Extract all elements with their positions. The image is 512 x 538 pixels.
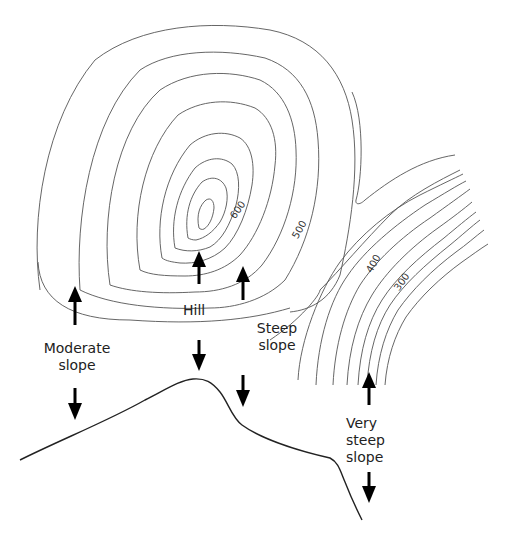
- contour-4: [137, 102, 276, 276]
- contour-valley-b: [298, 174, 463, 380]
- valley-contours: [270, 92, 488, 385]
- hill-contours: [37, 25, 355, 321]
- contour-valley-i: [385, 244, 488, 385]
- contour-valley-c: [316, 181, 466, 385]
- label-very-line1: Very: [346, 415, 396, 432]
- arrow-up-very-steep: [362, 372, 376, 405]
- contour-labels: 600 500 400 300: [228, 199, 412, 293]
- arrow-down-hill: [192, 340, 206, 371]
- label-steep-line2: slope: [252, 337, 302, 354]
- contour-600: [187, 178, 227, 240]
- contour-valley-g: [367, 220, 480, 385]
- label-moderate-line1: Moderate: [40, 340, 114, 357]
- arrow-up-hill: [192, 251, 206, 284]
- contour-label-400: 400: [364, 252, 383, 274]
- arrow-down-moderate: [68, 388, 82, 420]
- topographic-diagram: 600 500 400 300: [0, 0, 512, 538]
- label-very-line2: steep: [346, 432, 396, 449]
- arrow-down-steep: [236, 375, 250, 407]
- arrow-down-very-steep: [362, 472, 376, 503]
- label-very-steep-slope: Very steep slope: [346, 415, 396, 466]
- arrow-up-moderate: [68, 286, 82, 325]
- contour-6: [174, 159, 239, 251]
- label-hill: Hill: [183, 302, 205, 319]
- contour-valley-e: [347, 202, 472, 385]
- label-very-line3: slope: [346, 449, 396, 466]
- label-steep-slope: Steep slope: [252, 320, 302, 354]
- contour-summit: [198, 199, 214, 229]
- contour-label-600: 600: [228, 199, 248, 221]
- cross-section-profile: [20, 379, 362, 520]
- contour-outer-1: [37, 25, 355, 312]
- label-moderate-line2: slope: [40, 357, 114, 374]
- label-steep-line1: Steep: [252, 320, 302, 337]
- contour-5: [160, 133, 253, 263]
- contour-500-arc: [352, 92, 455, 204]
- contour-300: [376, 230, 484, 385]
- label-moderate-slope: Moderate slope: [40, 340, 114, 374]
